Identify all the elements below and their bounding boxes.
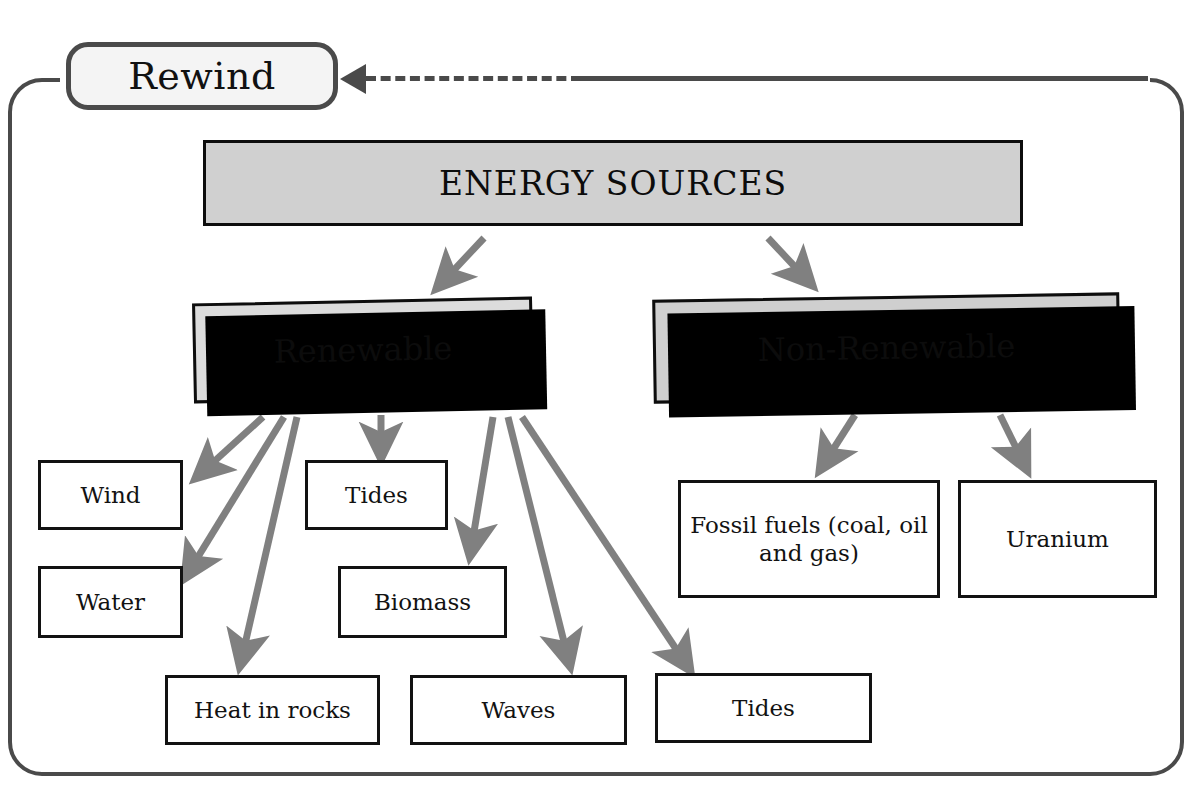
node-energy-sources[interactable]: ENERGY SOURCES [203,140,1023,226]
leaf-uranium[interactable]: Uranium [958,480,1157,598]
leaf-fossil-fuels[interactable]: Fossil fuels (coal, oil and gas) [678,480,940,598]
leaf-waves-label: Waves [482,696,556,724]
leaf-biomass[interactable]: Biomass [338,566,507,638]
node-non-renewable-label: Non-Renewable [758,327,1016,369]
return-path-solid [580,76,1148,81]
node-renewable-label: Renewable [273,329,452,371]
node-non-renewable[interactable]: Non-Renewable [652,292,1121,403]
leaf-heat-in-rocks[interactable]: Heat in rocks [165,675,380,745]
leaf-biomass-label: Biomass [374,588,471,616]
leaf-tides-upper[interactable]: Tides [305,460,448,530]
leaf-water-label: Water [76,588,145,616]
leaf-waves[interactable]: Waves [410,675,627,745]
leaf-heat-in-rocks-label: Heat in rocks [194,696,351,724]
rewind-button[interactable]: Rewind [66,42,338,110]
return-path-dashed [366,76,581,81]
node-renewable[interactable]: Renewable [192,297,534,404]
node-energy-sources-label: ENERGY SOURCES [439,164,787,203]
rewind-label: Rewind [128,57,276,95]
leaf-wind-label: Wind [80,481,140,509]
return-arrow-icon [340,64,366,94]
leaf-tides-upper-label: Tides [345,481,408,509]
diagram-canvas: Rewind ENERGY SOURCES [0,0,1201,800]
leaf-wind[interactable]: Wind [38,460,183,530]
leaf-tides-lower[interactable]: Tides [655,673,872,743]
leaf-uranium-label: Uranium [1006,525,1109,553]
leaf-fossil-fuels-label: Fossil fuels (coal, oil and gas) [687,511,931,567]
leaf-tides-lower-label: Tides [732,694,795,722]
leaf-water[interactable]: Water [38,566,183,638]
